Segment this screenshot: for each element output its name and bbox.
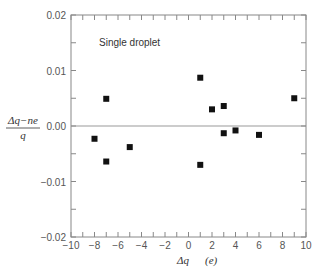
data-point (221, 103, 227, 109)
y-axis-label-numerator: Δq−ne (7, 114, 38, 126)
y-tick-label: −0.01 (41, 177, 67, 188)
x-axis-label: Δq (e) (176, 254, 218, 267)
x-axis-label-unit: (e) (205, 254, 218, 267)
y-tick-label: 0.00 (47, 121, 67, 132)
data-point (221, 130, 227, 136)
x-tick-label: 4 (233, 240, 239, 251)
data-point (197, 75, 203, 81)
x-tick-label: −8 (89, 240, 101, 251)
y-tick-label: 0.02 (47, 10, 67, 21)
data-point (209, 106, 215, 112)
data-point (103, 96, 109, 102)
scatter-chart: −10−8−6−4−20246810 −0.02−0.010.000.010.0… (0, 0, 318, 270)
x-tick-label: −2 (159, 240, 171, 251)
annotation-single-droplet: Single droplet (99, 37, 160, 48)
x-tick-label: 8 (280, 240, 286, 251)
y-tick-label: 0.01 (47, 66, 67, 77)
y-tick-label: −0.02 (41, 232, 67, 243)
x-tick-label: 10 (300, 240, 312, 251)
plot-frame (71, 15, 306, 237)
data-point (92, 136, 98, 142)
data-point (103, 159, 109, 165)
data-point (197, 162, 203, 168)
x-tick-label: 6 (256, 240, 262, 251)
x-axis-label-symbol: Δq (176, 254, 189, 266)
x-tick-labels: −10−8−6−4−20246810 (63, 240, 312, 251)
data-points (92, 75, 298, 168)
x-tick-label: −6 (112, 240, 124, 251)
x-tick-label: 2 (209, 240, 215, 251)
y-axis-label-denominator: q (20, 129, 26, 141)
y-axis-label: Δq−ne q (6, 114, 40, 141)
data-point (256, 132, 262, 138)
data-point (233, 127, 239, 133)
data-point (291, 95, 297, 101)
y-tick-labels: −0.02−0.010.000.010.02 (41, 10, 67, 243)
x-tick-label: 0 (186, 240, 192, 251)
x-tick-label: −4 (136, 240, 148, 251)
data-point (127, 144, 133, 150)
